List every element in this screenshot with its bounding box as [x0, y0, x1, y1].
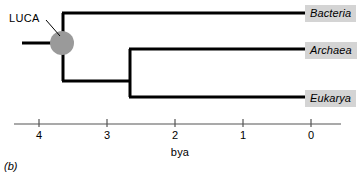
- phylogenetic-tree-figure: LUCA Bacteria Archaea Eukarya 4 3 2 1 0 …: [0, 0, 360, 178]
- axis-title: bya: [0, 146, 360, 158]
- axis-tick-label-0: 0: [299, 129, 323, 141]
- taxon-label-bacteria: Bacteria: [305, 5, 356, 22]
- taxon-label-eukarya: Eukarya: [305, 90, 356, 107]
- axis-tick-label-1: 1: [231, 129, 255, 141]
- axis-tick-label-4: 4: [27, 129, 51, 141]
- luca-annotation-label: LUCA: [9, 12, 40, 24]
- luca-leader-line: [46, 20, 60, 36]
- axis-tick-label-3: 3: [95, 129, 119, 141]
- luca-node-marker: [50, 31, 74, 55]
- taxon-label-archaea: Archaea: [305, 42, 357, 59]
- figure-caption: (b): [4, 160, 17, 172]
- axis-tick-label-2: 2: [163, 129, 187, 141]
